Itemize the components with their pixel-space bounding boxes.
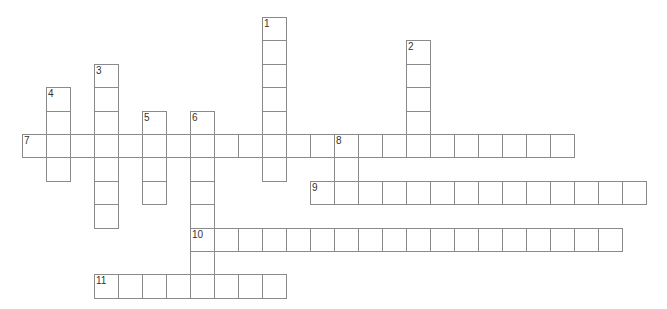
crossword-cell[interactable] (262, 274, 287, 298)
crossword-cell[interactable] (118, 134, 143, 158)
crossword-cell[interactable] (94, 134, 119, 158)
crossword-cell[interactable] (94, 111, 119, 135)
crossword-cell[interactable] (190, 134, 215, 158)
clue-number: 7 (24, 135, 30, 146)
crossword-cell[interactable]: 1 (262, 17, 287, 41)
crossword-cell[interactable] (190, 157, 215, 181)
crossword-cell[interactable] (262, 87, 287, 111)
crossword-cell[interactable]: 3 (94, 64, 119, 88)
crossword-cell[interactable] (454, 181, 479, 205)
crossword-grid: 1234561078911 (0, 0, 667, 309)
crossword-cell[interactable] (46, 157, 71, 181)
crossword-cell[interactable] (406, 181, 431, 205)
crossword-cell[interactable] (238, 274, 263, 298)
crossword-cell[interactable] (454, 134, 479, 158)
crossword-cell[interactable]: 10 (190, 228, 215, 252)
crossword-cell[interactable] (406, 64, 431, 88)
crossword-cell[interactable] (382, 228, 407, 252)
crossword-cell[interactable] (262, 64, 287, 88)
crossword-cell[interactable] (334, 181, 359, 205)
crossword-cell[interactable] (406, 111, 431, 135)
crossword-cell[interactable] (502, 181, 527, 205)
crossword-cell[interactable] (142, 157, 167, 181)
crossword-cell[interactable] (334, 228, 359, 252)
crossword-cell[interactable] (190, 204, 215, 228)
crossword-cell[interactable] (478, 134, 503, 158)
crossword-cell[interactable] (598, 228, 623, 252)
crossword-cell[interactable] (622, 181, 647, 205)
crossword-cell[interactable] (190, 181, 215, 205)
crossword-cell[interactable] (382, 134, 407, 158)
crossword-cell[interactable] (406, 134, 431, 158)
crossword-cell[interactable]: 11 (94, 274, 119, 298)
crossword-cell[interactable] (430, 181, 455, 205)
crossword-cell[interactable] (502, 134, 527, 158)
crossword-cell[interactable] (94, 204, 119, 228)
crossword-cell[interactable] (190, 274, 215, 298)
clue-number: 9 (312, 182, 318, 193)
crossword-cell[interactable] (502, 228, 527, 252)
crossword-cell[interactable] (598, 181, 623, 205)
crossword-cell[interactable] (526, 181, 551, 205)
crossword-cell[interactable] (526, 134, 551, 158)
crossword-cell[interactable] (454, 228, 479, 252)
crossword-cell[interactable] (262, 157, 287, 181)
crossword-cell[interactable] (574, 181, 599, 205)
crossword-cell[interactable] (358, 134, 383, 158)
crossword-cell[interactable] (118, 274, 143, 298)
crossword-cell[interactable] (166, 134, 191, 158)
crossword-cell[interactable]: 7 (22, 134, 47, 158)
crossword-cell[interactable] (406, 87, 431, 111)
crossword-cell[interactable] (310, 228, 335, 252)
crossword-cell[interactable] (358, 228, 383, 252)
crossword-cell[interactable] (46, 111, 71, 135)
crossword-cell[interactable] (334, 157, 359, 181)
clue-number: 2 (408, 41, 414, 52)
crossword-cell[interactable] (430, 134, 455, 158)
crossword-cell[interactable] (214, 134, 239, 158)
crossword-cell[interactable] (262, 40, 287, 64)
clue-number: 6 (192, 112, 198, 123)
crossword-cell[interactable] (382, 181, 407, 205)
crossword-cell[interactable] (550, 228, 575, 252)
crossword-cell[interactable] (262, 228, 287, 252)
clue-number: 8 (336, 135, 342, 146)
crossword-cell[interactable]: 8 (334, 134, 359, 158)
crossword-cell[interactable]: 4 (46, 87, 71, 111)
clue-number: 4 (48, 88, 54, 99)
crossword-cell[interactable] (238, 134, 263, 158)
crossword-cell[interactable] (406, 228, 431, 252)
crossword-cell[interactable] (310, 134, 335, 158)
crossword-cell[interactable] (142, 134, 167, 158)
crossword-cell[interactable] (526, 228, 551, 252)
crossword-cell[interactable] (238, 228, 263, 252)
crossword-cell[interactable] (70, 134, 95, 158)
crossword-cell[interactable] (430, 228, 455, 252)
crossword-cell[interactable] (94, 87, 119, 111)
crossword-cell[interactable] (286, 228, 311, 252)
crossword-cell[interactable] (478, 181, 503, 205)
crossword-cell[interactable] (574, 228, 599, 252)
crossword-cell[interactable] (142, 274, 167, 298)
crossword-cell[interactable]: 5 (142, 111, 167, 135)
crossword-cell[interactable]: 9 (310, 181, 335, 205)
crossword-cell[interactable] (214, 274, 239, 298)
crossword-cell[interactable] (478, 228, 503, 252)
crossword-cell[interactable] (94, 181, 119, 205)
crossword-cell[interactable]: 2 (406, 40, 431, 64)
crossword-cell[interactable] (214, 228, 239, 252)
clue-number: 3 (96, 65, 102, 76)
crossword-cell[interactable] (94, 157, 119, 181)
crossword-cell[interactable] (550, 181, 575, 205)
crossword-cell[interactable] (46, 134, 71, 158)
crossword-cell[interactable] (262, 111, 287, 135)
crossword-cell[interactable] (550, 134, 575, 158)
crossword-cell[interactable] (142, 181, 167, 205)
crossword-cell[interactable] (286, 134, 311, 158)
crossword-cell[interactable] (358, 181, 383, 205)
crossword-cell[interactable]: 6 (190, 111, 215, 135)
crossword-cell[interactable] (262, 134, 287, 158)
clue-number: 1 (264, 18, 270, 29)
crossword-cell[interactable] (166, 274, 191, 298)
crossword-cell[interactable] (190, 251, 215, 275)
